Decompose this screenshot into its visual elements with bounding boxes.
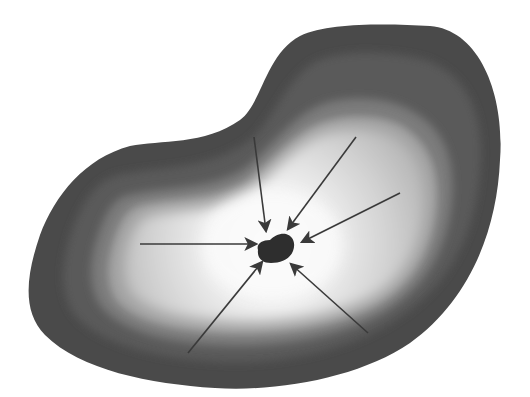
convergence-diagram: [0, 0, 530, 397]
